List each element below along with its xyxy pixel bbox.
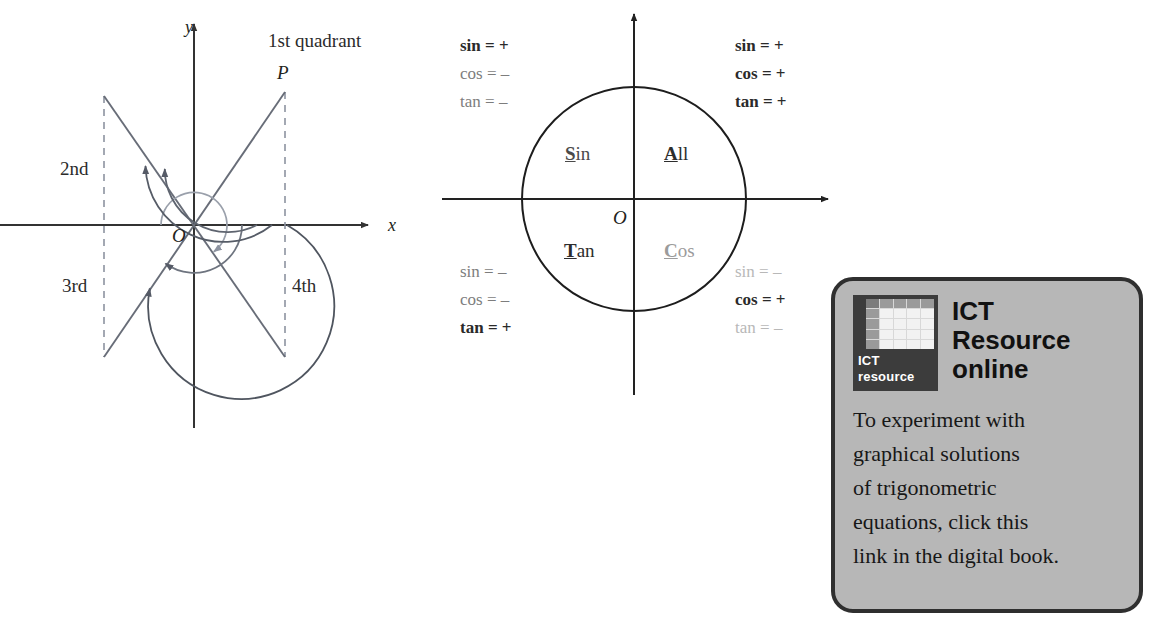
ict-body-text: To experiment with graphical solutions o… (853, 403, 1123, 573)
grid-cell (894, 299, 907, 308)
grid-cell (921, 319, 934, 328)
quadrant-label-fourth: 4th (292, 276, 316, 295)
sign-group-bottom-left: sin = – cos = – tan = + (460, 258, 512, 342)
grid-cell (866, 340, 879, 349)
cast-word-sin-initial: S (565, 143, 576, 164)
grid-cell (907, 330, 920, 339)
ict-title: ICT Resource online (952, 295, 1071, 384)
sign-row: tan = – (735, 314, 786, 342)
grid-cell (921, 340, 934, 349)
sign-row: sin = – (735, 258, 786, 286)
quadrant-label-first: 1st quadrant (268, 31, 361, 50)
point-P-label: P (277, 63, 289, 82)
ict-body-line: link in the digital book. (853, 539, 1123, 573)
ict-body-line: graphical solutions (853, 437, 1123, 471)
grid-cell (907, 319, 920, 328)
sign-row: cos = – (460, 60, 509, 88)
ict-icon-caption-line2: resource (858, 369, 915, 384)
ict-header: ICT resource ICT Resource online (853, 295, 1123, 391)
grid-cell (894, 309, 907, 318)
ict-body-line: equations, click this (853, 505, 1123, 539)
grid-cell (866, 309, 879, 318)
ict-body-line: To experiment with (853, 403, 1123, 437)
ict-body-line: of trigonometric (853, 471, 1123, 505)
grid-cell (894, 319, 907, 328)
grid-cell (894, 330, 907, 339)
ict-resource-icon: ICT resource (853, 295, 938, 391)
cast-word-sin-rest: in (576, 143, 591, 164)
grid-cell (880, 319, 893, 328)
sign-group-top-left: sin = + cos = – tan = – (460, 32, 509, 116)
grid-cell (907, 299, 920, 308)
sign-row: cos = + (735, 286, 786, 314)
grid-cell (866, 330, 879, 339)
sign-row: sin = – (460, 258, 512, 286)
quadrant-label-second: 2nd (60, 159, 89, 178)
x-axis-label: x (388, 216, 396, 234)
ict-title-line1: ICT (952, 297, 1071, 326)
cast-origin-label: O (613, 208, 627, 227)
grid-cell (880, 340, 893, 349)
grid-cell (921, 299, 934, 308)
grid-cell (921, 330, 934, 339)
cast-word-all-initial: A (664, 143, 678, 164)
grid-cell (880, 299, 893, 308)
grid-cell (921, 309, 934, 318)
grid-cell (907, 309, 920, 318)
quadrant-diagram-svg (0, 0, 420, 430)
cast-word-cos-initial: C (664, 240, 678, 261)
ict-resource-callout[interactable]: ICT resource ICT Resource online To expe… (831, 277, 1143, 613)
grid-cell (880, 330, 893, 339)
sign-row: cos = – (460, 286, 512, 314)
sign-group-bottom-right: sin = – cos = + tan = – (735, 258, 786, 342)
grid-cell (907, 340, 920, 349)
cast-word-all-rest: ll (678, 143, 689, 164)
cast-word-cos-rest: os (678, 240, 695, 261)
cast-word-tan-rest: an (577, 240, 595, 261)
ict-title-line3: online (952, 355, 1071, 384)
sign-group-top-right: sin = + cos = + tan = + (735, 32, 787, 116)
cast-word-cos: Cos (664, 240, 695, 262)
y-axis-label: y (185, 18, 193, 36)
grid-cell (894, 340, 907, 349)
sign-row: tan = + (460, 314, 512, 342)
quadrant-angles-diagram: x y O P 1st quadrant 2nd 3rd 4th (0, 0, 420, 430)
cast-word-tan: Tan (564, 240, 595, 262)
sign-row: tan = – (460, 88, 509, 116)
grid-cell (866, 299, 879, 308)
sign-row: sin = + (460, 32, 509, 60)
quadrant-label-third: 3rd (62, 276, 87, 295)
sign-row: cos = + (735, 60, 787, 88)
cast-unit-circle-diagram: O All Sin Tan Cos sin = + cos = – tan = … (430, 0, 850, 440)
cast-word-tan-initial: T (564, 240, 577, 261)
cast-word-sin: Sin (565, 143, 590, 165)
ict-icon-caption-line1: ICT (858, 353, 880, 368)
grid-cell (880, 309, 893, 318)
grid-cell (866, 319, 879, 328)
origin-label-quadrants: O (172, 226, 186, 245)
cast-word-all: All (664, 143, 688, 165)
sign-row: sin = + (735, 32, 787, 60)
ict-title-line2: Resource (952, 326, 1071, 355)
spreadsheet-grid-icon (865, 298, 935, 350)
sign-row: tan = + (735, 88, 787, 116)
